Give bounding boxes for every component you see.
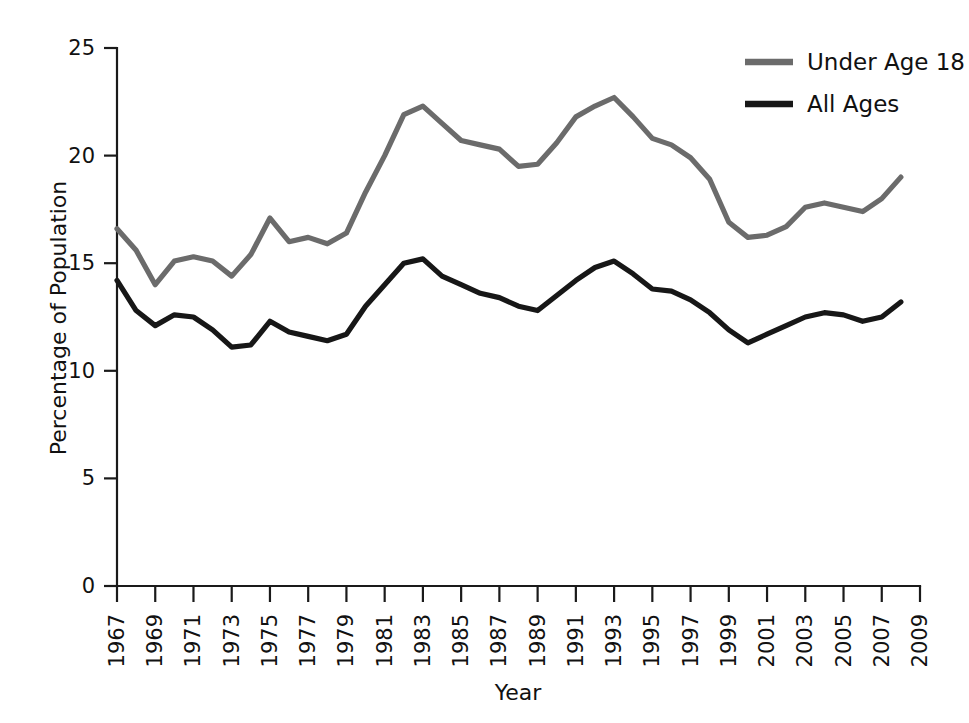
x-tick-label: 2009 (908, 614, 932, 667)
x-tick-label: 1981 (373, 614, 397, 667)
x-tick-label: 1999 (717, 614, 741, 667)
y-tick-label: 25 (68, 36, 95, 60)
x-tick-label: 1991 (564, 614, 588, 667)
legend-label-under-age-18: Under Age 18 (807, 49, 965, 75)
data-series-group (117, 98, 901, 348)
y-axis-title: Percentage of Population (46, 181, 71, 456)
x-tick-label: 1971 (181, 614, 205, 667)
x-tick-label: 1973 (220, 614, 244, 667)
x-tick-label: 2003 (793, 614, 817, 667)
y-tick-label: 20 (68, 144, 95, 168)
x-tick-label: 2005 (832, 614, 856, 667)
x-axis-tick-labels: 1967196919711973197519771979198119831985… (105, 614, 932, 667)
x-tick-label: 1979 (334, 614, 358, 667)
x-tick-label: 1989 (526, 614, 550, 667)
y-tick-label: 5 (82, 466, 95, 490)
x-axis-ticks (117, 586, 920, 602)
x-tick-label: 1995 (640, 614, 664, 667)
y-axis-tick-labels: 0510152025 (68, 36, 95, 598)
chart-page: 0510152025 19671969197119731975197719791… (0, 0, 969, 723)
y-axis-ticks (104, 48, 117, 586)
y-tick-label: 10 (68, 359, 95, 383)
x-tick-label: 1967 (105, 614, 129, 667)
x-tick-label: 1985 (449, 614, 473, 667)
x-tick-label: 1997 (679, 614, 703, 667)
x-tick-label: 1983 (411, 614, 435, 667)
series-line-under-age-18 (117, 98, 901, 285)
x-tick-label: 1969 (143, 614, 167, 667)
x-tick-label: 1987 (487, 614, 511, 667)
x-tick-label: 2007 (870, 614, 894, 667)
x-tick-label: 2001 (755, 614, 779, 667)
legend-label-all-ages: All Ages (807, 91, 899, 117)
poverty-rate-line-chart: 0510152025 19671969197119731975197719791… (0, 0, 969, 723)
x-axis-title: Year (494, 680, 543, 705)
y-tick-label: 15 (68, 251, 95, 275)
x-tick-label: 1993 (602, 614, 626, 667)
y-tick-label: 0 (82, 574, 95, 598)
chart-legend: Under Age 18All Ages (745, 49, 965, 117)
x-tick-label: 1977 (296, 614, 320, 667)
x-tick-label: 1975 (258, 614, 282, 667)
